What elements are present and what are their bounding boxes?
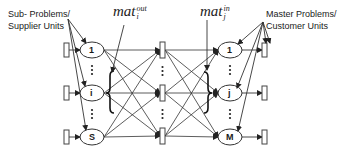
right-label-line1: Master Problems/ xyxy=(266,9,337,20)
right-label-line2: Customer Units xyxy=(266,21,328,32)
right-node-1: 1 xyxy=(227,45,232,56)
left-node-s: S xyxy=(89,132,95,143)
right-output-arrows xyxy=(242,50,262,137)
right-output-boxes xyxy=(262,43,267,144)
mat-out-base: mat xyxy=(113,3,136,19)
left-label-line2: Supplier Units xyxy=(8,21,64,32)
left-node-i: i xyxy=(90,88,93,99)
mat-in-sub: j xyxy=(224,13,230,21)
mat-out-sub: i xyxy=(137,13,147,21)
mat-in-label: matinj xyxy=(200,3,230,21)
left-input-boxes xyxy=(64,43,69,144)
mesh-left xyxy=(104,50,160,137)
right-node-m: M xyxy=(226,132,234,143)
mat-in-base: mat xyxy=(200,3,223,19)
left-input-arrows xyxy=(69,50,80,137)
left-node-1: 1 xyxy=(89,45,94,56)
mat-out-label: matouti xyxy=(113,3,147,21)
left-label-line1: Sub- Problems/ xyxy=(8,9,70,20)
right-label-pointers xyxy=(237,22,270,131)
right-node-j: j xyxy=(228,88,231,99)
left-label-pointers xyxy=(68,19,86,130)
middle-boxes xyxy=(160,42,165,144)
